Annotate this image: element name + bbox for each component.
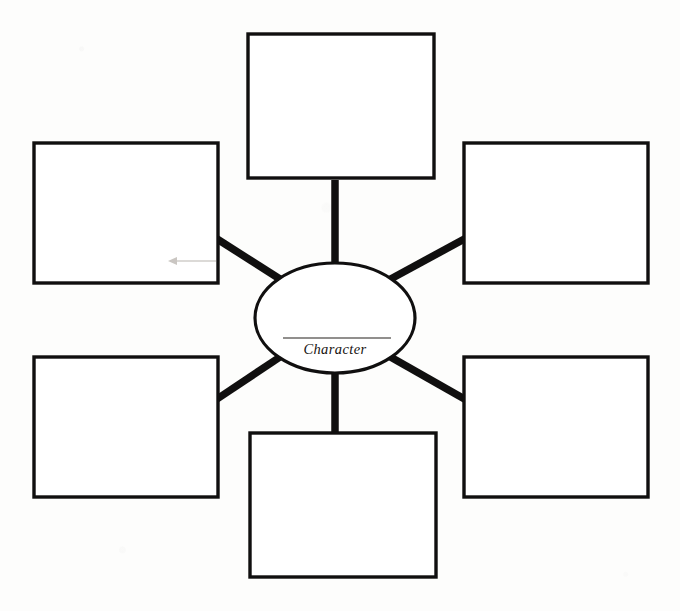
connector-center-to-bottom-left — [214, 355, 283, 401]
trait-box-bottom-left[interactable] — [34, 357, 218, 497]
center-label: Character — [303, 341, 366, 357]
connector-center-to-bottom-right — [387, 355, 468, 401]
trait-box-bottom[interactable] — [250, 433, 436, 577]
trait-box-top-left[interactable] — [34, 143, 218, 283]
trait-box-top[interactable] — [248, 34, 434, 178]
trait-box-top-right[interactable] — [464, 143, 648, 283]
character-web-diagram: Character — [0, 0, 680, 611]
worksheet-page: Character — [0, 0, 680, 611]
trait-box-bottom-right[interactable] — [464, 357, 648, 497]
connector-center-to-top-right — [387, 237, 468, 281]
center-node-group: Character — [255, 263, 415, 373]
connector-center-to-top-left — [214, 237, 283, 281]
